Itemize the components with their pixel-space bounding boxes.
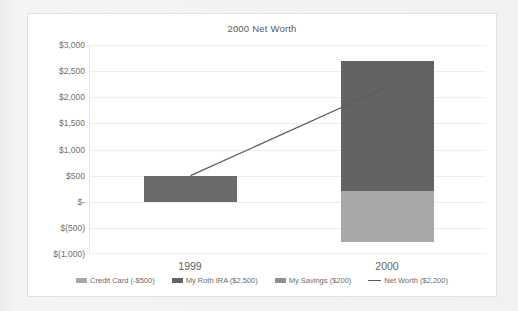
x-tick-label-2000: 2000 [375,260,398,272]
y-tick-label: $2,500 [31,66,85,76]
net-worth-line-segment [191,87,388,176]
y-axis-tick-labels: $3,000 $2,500 $2,000 $1,500 $1,000 $500 … [28,45,85,254]
legend-label: My Savings ($200) [289,276,352,285]
legend-swatch-icon [76,278,87,283]
x-tick-label-1999: 1999 [178,260,201,272]
net-worth-line-series[interactable] [89,45,486,254]
legend-item-net-worth[interactable]: Net Worth ($2,200) [368,276,448,285]
y-tick-label: $500 [31,171,85,181]
legend-swatch-icon [172,278,183,283]
legend-item-savings[interactable]: My Savings ($200) [275,276,352,285]
chart-title: 2000 Net Worth [28,23,496,34]
y-tick-label: $1,000 [31,145,85,155]
chart-legend: Credit Card (-$500) My Roth IRA ($2,500)… [28,276,496,285]
legend-label: Net Worth ($2,200) [384,276,448,285]
legend-label: My Roth IRA ($2,500) [186,276,258,285]
y-tick-label: $1,500 [31,118,85,128]
legend-item-credit-card[interactable]: Credit Card (-$500) [76,276,155,285]
y-tick-label: $- [31,197,85,207]
legend-line-icon [368,280,381,281]
y-tick-label: $3,000 [31,40,85,50]
y-tick-label: $(1,000) [31,249,85,259]
legend-swatch-icon [275,278,286,283]
legend-item-roth-ira[interactable]: My Roth IRA ($2,500) [172,276,258,285]
chart-container: 2000 Net Worth $3,000 $2,500 $2,000 $1,5… [27,13,497,297]
y-tick-label: $2,000 [31,92,85,102]
y-tick-label: $(500) [31,223,85,233]
legend-label: Credit Card (-$500) [90,276,155,285]
